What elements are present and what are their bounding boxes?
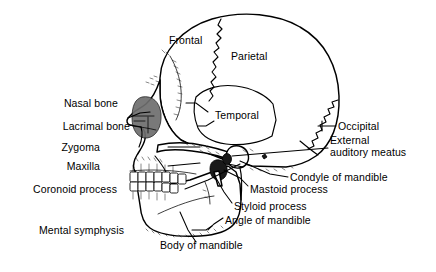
label-condyle-of-mandible: Condyle of mandible [290, 171, 388, 183]
label-frontal: Frontal [169, 34, 202, 46]
label-body-of-mandible: Body of mandible [160, 239, 243, 251]
label-angle-of-mandible: Angle of mandible [225, 214, 311, 226]
label-external-auditory-meatus-line1: External [330, 134, 369, 146]
orbit [132, 97, 161, 138]
label-mental-symphysis: Mental symphysis [39, 224, 124, 236]
label-lacrimal-bone: Lacrimal bone [63, 120, 130, 132]
label-mastoid-process: Mastoid process [250, 183, 328, 195]
skull-diagram: Nasal bone Lacrimal bone Zygoma Maxilla … [0, 0, 436, 272]
label-temporal: Temporal [215, 109, 259, 121]
label-maxilla: Maxilla [67, 160, 100, 172]
label-zygoma: Zygoma [61, 141, 100, 153]
label-coronoid-process: Coronoid process [33, 183, 117, 195]
label-nasal-bone: Nasal bone [64, 97, 118, 109]
external-auditory-meatus [223, 154, 232, 165]
label-styloid-process: Styloid process [234, 200, 307, 212]
label-parietal: Parietal [231, 50, 267, 62]
glabella-stipple [146, 76, 159, 85]
label-occipital: Occipital [338, 120, 379, 132]
label-external-auditory-meatus-line2: auditory meatus [330, 146, 406, 158]
